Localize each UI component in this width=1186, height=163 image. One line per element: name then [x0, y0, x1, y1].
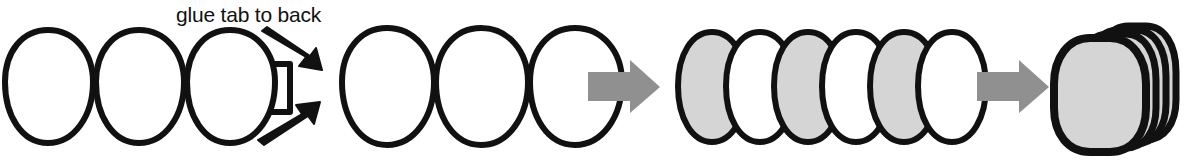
step-1-strip-with-tab — [5, 30, 290, 143]
strip2-oval-1 — [342, 28, 434, 145]
glue-tab-label: glue tab to back — [176, 3, 322, 26]
assembly-diagram: glue tab to back — [0, 0, 1186, 163]
diagram-canvas: glue tab to back — [0, 0, 1186, 163]
strip2-oval-2 — [436, 28, 528, 145]
overlap-oval-6 — [918, 32, 986, 142]
strip1-oval-1 — [5, 30, 93, 143]
stack-layer-1-front — [1054, 38, 1146, 152]
arrow-step3-to-step4-shape — [977, 60, 1049, 113]
arrow-step3-to-step4 — [977, 60, 1049, 113]
strip1-oval-2 — [96, 30, 184, 143]
step-4-collapsed-stack — [1054, 26, 1176, 152]
step-2-second-strip — [342, 28, 622, 145]
step-3-overlapped-ovals — [678, 32, 986, 142]
tab-junction-mask — [247, 70, 267, 106]
